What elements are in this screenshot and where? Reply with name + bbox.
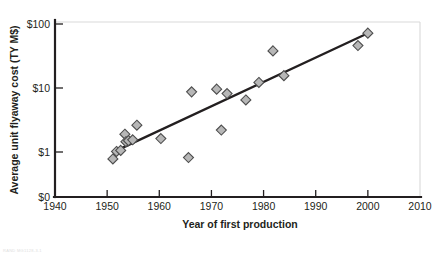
data-point-marker bbox=[363, 28, 373, 38]
data-point-marker bbox=[279, 71, 289, 81]
y-axis-title: Average unit flyaway cost (TY M$) bbox=[8, 25, 20, 194]
x-tick-label: 1960 bbox=[148, 200, 172, 212]
x-axis-tick-labels: 19401950196019701980199020002010 bbox=[43, 200, 432, 212]
data-point-marker bbox=[183, 153, 193, 163]
trend-line-segment bbox=[122, 33, 369, 148]
data-point-marker bbox=[268, 46, 278, 56]
data-point-marker bbox=[216, 125, 226, 135]
y-axis-ticks bbox=[55, 24, 63, 152]
y-tick-label: $1 bbox=[38, 146, 50, 158]
x-axis-title: Year of first production bbox=[182, 218, 298, 230]
data-point-marker bbox=[156, 134, 166, 144]
x-tick-label: 2010 bbox=[408, 200, 432, 212]
data-point-marker bbox=[353, 41, 363, 51]
y-tick-label: $10 bbox=[32, 82, 50, 94]
x-tick-label: 1990 bbox=[304, 200, 328, 212]
x-tick-label: 1970 bbox=[200, 200, 224, 212]
data-point-marker bbox=[187, 87, 197, 97]
x-tick-label: 2000 bbox=[356, 200, 380, 212]
trend-line bbox=[122, 33, 369, 148]
data-point-marker bbox=[132, 120, 142, 130]
data-point-marker bbox=[212, 84, 222, 94]
watermark-text: RAND MG1128-3.1 bbox=[3, 248, 42, 253]
data-point-marker bbox=[241, 95, 251, 105]
x-tick-label: 1940 bbox=[43, 200, 67, 212]
y-tick-label: $100 bbox=[27, 18, 51, 30]
y-axis-tick-labels: $0$1$10$100 bbox=[27, 18, 51, 203]
scatter-chart: $0$1$10$100 1940195019601970198019902000… bbox=[0, 0, 437, 259]
chart-container: $0$1$10$100 1940195019601970198019902000… bbox=[0, 0, 437, 259]
x-tick-label: 1950 bbox=[95, 200, 119, 212]
plot-frame bbox=[54, 20, 421, 197]
x-tick-label: 1980 bbox=[252, 200, 276, 212]
